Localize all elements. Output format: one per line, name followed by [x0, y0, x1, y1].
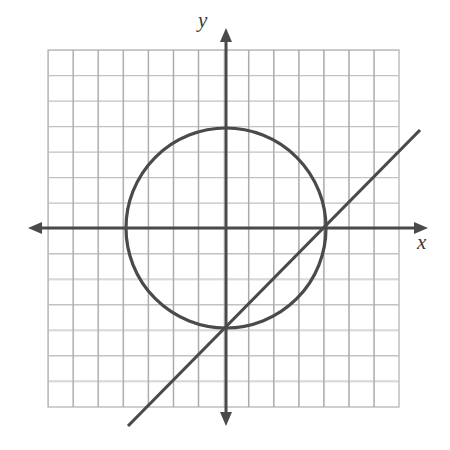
y-axis-arrow-up [220, 28, 232, 42]
y-axis-label: y [198, 10, 207, 31]
graph-figure: y x [0, 0, 450, 450]
x-axis-label: x [417, 232, 426, 253]
x-axis-arrow-left [28, 222, 42, 234]
y-axis-arrow-down [220, 412, 232, 426]
coordinate-plane-svg [0, 0, 450, 450]
